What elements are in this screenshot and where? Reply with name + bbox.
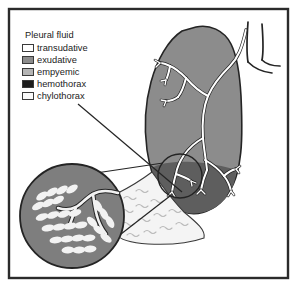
- legend-title: Pleural fluid: [25, 30, 142, 41]
- legend-label-transudative: transudative: [37, 43, 88, 53]
- legend-label-empyemic: empyemic: [37, 67, 79, 77]
- swatch-transudative: [22, 44, 34, 53]
- legend-label-exudative: exudative: [37, 55, 77, 65]
- legend-label-chylothorax: chylothorax: [37, 91, 85, 101]
- legend-item-transudative: transudative: [22, 42, 142, 54]
- swatch-exudative: [22, 56, 34, 65]
- swatch-empyemic: [22, 68, 34, 77]
- legend-label-hemothorax: hemothorax: [37, 79, 86, 89]
- legend: Pleural fluid transudative exudative emp…: [22, 30, 142, 102]
- legend-item-exudative: exudative: [22, 54, 142, 66]
- legend-item-chylothorax: chylothorax: [22, 90, 142, 102]
- swatch-hemothorax: [22, 80, 34, 89]
- figure-root: Pleural fluid transudative exudative emp…: [0, 0, 305, 293]
- legend-item-hemothorax: hemothorax: [22, 78, 142, 90]
- legend-item-empyemic: empyemic: [22, 66, 142, 78]
- swatch-chylothorax: [22, 92, 34, 101]
